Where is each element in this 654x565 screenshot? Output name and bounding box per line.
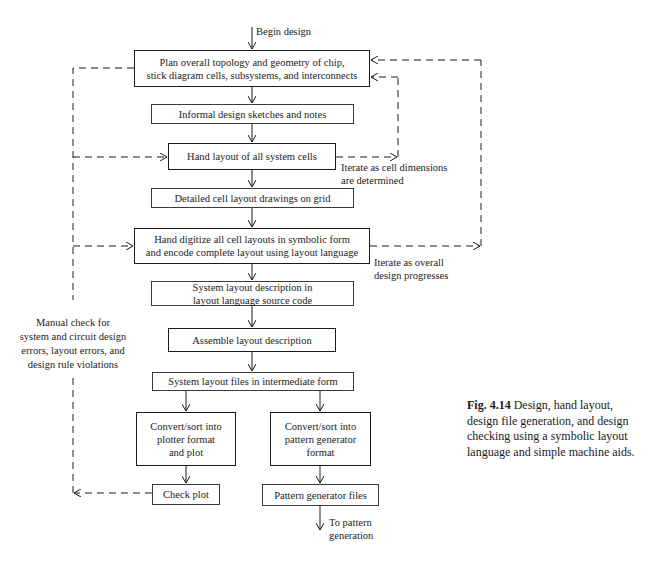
node-text: System layout files in intermediate form (168, 375, 337, 388)
node-layout-source: System layout description in layout lang… (151, 281, 354, 306)
node-assemble: Assemble layout description (168, 328, 336, 352)
node-text: Check plot (163, 488, 209, 501)
node-text: Hand layout of all system cells (187, 150, 317, 163)
node-hand-layout: Hand layout of all system cells (168, 143, 336, 170)
node-pg-format: Convert/sort into pattern generator form… (270, 412, 371, 466)
iterate-cells-annotation: Iterate as cell dimensions are determine… (341, 161, 447, 187)
node-text: Hand digitize all cell layouts in symbol… (146, 233, 358, 259)
figure-number: Fig. 4.14 (467, 398, 511, 412)
node-text: Convert/sort into plotter format and plo… (150, 420, 221, 459)
node-text: Pattern generator files (274, 489, 367, 502)
node-text: System layout description in layout lang… (193, 281, 313, 307)
node-text: Detailed cell layout drawings on grid (175, 192, 331, 205)
node-text: Convert/sort into pattern generator form… (285, 420, 356, 459)
node-detailed-drawings: Detailed cell layout drawings on grid (151, 188, 354, 208)
node-text: Informal design sketches and notes (179, 108, 327, 121)
figure-caption: Fig. 4.14 Design, hand layout, design fi… (467, 398, 647, 460)
node-hand-digitize: Hand digitize all cell layouts in symbol… (134, 228, 370, 264)
end-annotation: To pattern generation (329, 516, 373, 542)
node-check-plot: Check plot (152, 484, 220, 505)
node-design-sketches: Informal design sketches and notes (151, 104, 354, 124)
node-pg-files: Pattern generator files (262, 484, 379, 506)
flowchart: Begin design Plan overall topology and g… (0, 0, 654, 565)
node-plotter-format: Convert/sort into plotter format and plo… (136, 412, 236, 466)
iterate-overall-annotation: Iterate as overall design progresses (374, 256, 448, 282)
node-plan-topology: Plan overall topology and geometry of ch… (134, 50, 370, 87)
manual-check-annotation: Manual check for system and circuit desi… (8, 316, 138, 372)
node-text: Assemble layout description (192, 334, 312, 347)
node-intermediate-files: System layout files in intermediate form (152, 372, 354, 391)
node-text: Plan overall topology and geometry of ch… (147, 56, 358, 82)
begin-design-label: Begin design (256, 25, 311, 38)
